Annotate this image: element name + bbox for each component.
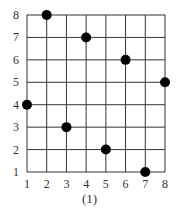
x-tick-label: 4 bbox=[83, 177, 89, 191]
x-tick-label: 5 bbox=[103, 177, 109, 191]
x-tick-label: 8 bbox=[162, 177, 168, 191]
x-tick-label: 3 bbox=[63, 177, 69, 191]
x-tick-label: 2 bbox=[44, 177, 50, 191]
data-point bbox=[140, 167, 150, 177]
y-tick-label: 6 bbox=[13, 53, 19, 67]
x-tick-label: 1 bbox=[24, 177, 30, 191]
data-point bbox=[22, 100, 32, 110]
data-point bbox=[101, 145, 111, 155]
y-tick-label: 3 bbox=[13, 120, 19, 134]
y-tick-label: 8 bbox=[13, 8, 19, 22]
data-point bbox=[42, 10, 52, 20]
y-tick-label: 5 bbox=[13, 75, 19, 89]
data-point bbox=[81, 32, 91, 42]
grid-lines bbox=[27, 15, 165, 172]
y-tick-label: 4 bbox=[13, 98, 19, 112]
x-axis-ticks: 12345678 bbox=[24, 177, 168, 191]
y-tick-label: 2 bbox=[13, 143, 19, 157]
data-point bbox=[160, 77, 170, 87]
data-point bbox=[121, 55, 131, 65]
figure-caption: (1) bbox=[0, 191, 179, 207]
x-tick-label: 7 bbox=[142, 177, 148, 191]
y-axis-ticks: 12345678 bbox=[13, 8, 19, 179]
y-tick-label: 7 bbox=[13, 30, 19, 44]
y-tick-label: 1 bbox=[13, 165, 19, 179]
x-tick-label: 6 bbox=[123, 177, 129, 191]
scatter-chart: 12345678 12345678 bbox=[0, 0, 179, 219]
data-point bbox=[61, 122, 71, 132]
data-points bbox=[22, 10, 170, 177]
